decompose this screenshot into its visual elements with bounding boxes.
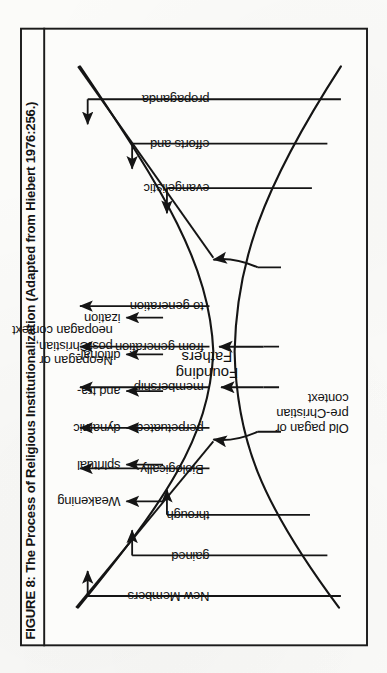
decline-label-3: dynamic [73,421,120,435]
institutionalization-label-2: perpetuated [136,421,203,435]
neopagan-context-line-3: neopagan context [12,323,113,338]
evangelism-label-1: evangelistic [143,181,209,195]
founding-fathers-line-1: Founding [153,365,259,382]
growth-label-3: through [166,508,209,522]
old-context-line-1: Old pagan or [275,420,348,435]
neopagan-context-line-2: postChristian, [12,338,113,353]
founding-fathers-line-2: Fathers [153,348,259,365]
growth-arrow-group [87,489,340,595]
institutionalization-label-3: membership [133,380,203,394]
evangelism-label-2: efforts and [150,136,209,150]
founding-fathers-label: Founding Fathers [153,348,259,382]
institutionalization-label-5: to generation [129,299,203,313]
scanned-page-background: FIGURE 8: The Process of Religious Insti… [0,0,387,673]
evangelism-label-3: propaganda [141,92,209,106]
evangelism-arrow-group [87,99,340,213]
growth-label-1: New Members [127,589,209,603]
neck-curved-arrow-right [213,258,257,266]
decline-label-1: Weakening [57,494,120,508]
old-context-line-2: pre-Christian [275,406,348,421]
decline-label-4: and tra- [77,384,120,398]
figure-rotated-container: FIGURE 8: The Process of Religious Insti… [20,27,368,646]
growth-label-2: gained [171,548,209,562]
institutionalization-label-1: Biologically [140,461,203,475]
neck-curved-arrow-left [213,431,257,439]
old-context-block: Old pagan or pre-Christian context [275,391,348,435]
old-context-line-3: context [275,391,348,406]
decline-label-2: spiritual [77,457,120,471]
neopagan-context-block: Neopagan or postChristian, neopagan cont… [12,323,113,367]
neopagan-context-line-1: Neopagan or [12,353,113,368]
